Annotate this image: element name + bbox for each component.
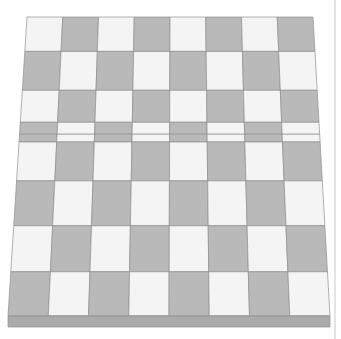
board-square: [132, 90, 169, 122]
board-square: [208, 181, 247, 226]
checkerboard-illustration: [0, 0, 341, 339]
board-square: [242, 51, 280, 90]
board-square: [92, 181, 132, 226]
board-square: [130, 226, 170, 272]
board-square: [133, 51, 170, 90]
board-square: [286, 226, 328, 272]
board-square: [22, 51, 61, 90]
board-square: [169, 226, 209, 272]
board-square: [25, 17, 63, 51]
board-square: [58, 90, 96, 122]
board-square: [95, 90, 133, 122]
board-square: [246, 181, 286, 226]
board-square: [206, 17, 243, 51]
board-square: [245, 142, 284, 181]
board-square: [242, 17, 279, 51]
board-square: [208, 226, 248, 272]
board-square: [206, 51, 243, 90]
board-square: [132, 122, 170, 134]
checkerboard-cells: [8, 17, 330, 316]
board-square: [59, 51, 97, 90]
board-square: [132, 134, 170, 142]
board-square: [95, 122, 133, 134]
board-square: [209, 272, 250, 316]
board-square: [288, 272, 330, 316]
board-square: [243, 90, 281, 122]
board-square: [170, 51, 207, 90]
scene-canvas: [0, 0, 341, 339]
board-square: [282, 134, 320, 142]
board-square: [170, 134, 208, 142]
board-square: [277, 17, 315, 51]
board-square: [134, 17, 170, 51]
board-square: [90, 226, 130, 272]
board-square: [89, 272, 130, 316]
board-square: [11, 226, 53, 272]
board-square: [8, 272, 50, 316]
board-square: [282, 122, 320, 134]
board-square: [244, 122, 282, 134]
board-square: [96, 51, 134, 90]
board-square: [207, 122, 245, 134]
board-square: [280, 90, 319, 122]
board-thickness-face: [8, 316, 330, 327]
board-square: [282, 142, 322, 181]
board-square: [57, 134, 95, 142]
board-square: [55, 142, 95, 181]
board-square: [93, 142, 132, 181]
board-square: [17, 142, 57, 181]
board-square: [20, 90, 59, 122]
board-square: [53, 181, 93, 226]
board-square: [245, 134, 283, 142]
board-square: [284, 181, 325, 226]
board-square: [169, 272, 209, 316]
board-square: [207, 142, 246, 181]
board-square: [57, 122, 95, 134]
board-square: [170, 90, 207, 122]
board-square: [97, 17, 134, 51]
board-square: [207, 90, 245, 122]
board-square: [19, 134, 57, 142]
board-square: [131, 142, 169, 181]
board-square: [247, 226, 288, 272]
board-square: [129, 272, 169, 316]
board-square: [50, 226, 91, 272]
board-square: [169, 142, 207, 181]
board-square: [94, 134, 132, 142]
board-square: [169, 181, 208, 226]
board-square: [207, 134, 245, 142]
board-square: [48, 272, 90, 316]
board-square: [279, 51, 317, 90]
board-square: [170, 122, 208, 134]
board-square: [14, 181, 55, 226]
board-edge-band: [8, 316, 330, 327]
board-square: [61, 17, 98, 51]
board-square: [130, 181, 169, 226]
board-square: [20, 122, 58, 134]
board-square: [170, 17, 206, 51]
board-square: [248, 272, 289, 316]
